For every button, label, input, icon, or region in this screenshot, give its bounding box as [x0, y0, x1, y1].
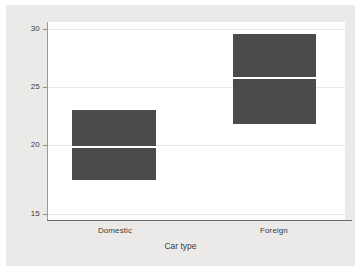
box-domestic — [72, 110, 156, 180]
median-line-foreign — [233, 77, 316, 79]
y-tick-label-30: 30 — [6, 25, 40, 33]
y-axis-line — [47, 22, 48, 221]
y-axis-title: Mileage (mpg) — [0, 130, 57, 144]
x-tick-label-domestic: Domestic — [75, 226, 155, 236]
x-tick-label-foreign: Foreign — [234, 226, 314, 236]
gridline-30 — [47, 29, 345, 30]
graph-region: 30 25 20 15 Mileage (mpg) Domestic Forei… — [6, 5, 355, 266]
y-tick-label-15: 15 — [6, 210, 40, 218]
x-axis-line — [47, 220, 352, 221]
gridline-15 — [47, 214, 345, 215]
x-axis-title: Car type — [6, 241, 355, 251]
y-tick-mark-15 — [43, 214, 47, 215]
box-foreign — [233, 34, 316, 124]
y-tick-mark-20 — [43, 145, 47, 146]
y-tick-label-25: 25 — [6, 83, 40, 91]
y-tick-mark-25 — [43, 87, 47, 88]
y-tick-mark-30 — [43, 29, 47, 30]
chart-figure: 30 25 20 15 Mileage (mpg) Domestic Forei… — [0, 0, 361, 271]
plot-region — [47, 22, 345, 220]
median-line-domestic — [72, 146, 156, 148]
